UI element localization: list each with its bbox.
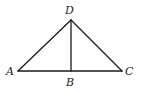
triangle-diagram: D A B C	[0, 0, 146, 91]
segment-DC	[71, 20, 122, 71]
point-label-b: B	[65, 76, 74, 89]
vertex-label-c: C	[125, 65, 134, 78]
vertex-label-d: D	[64, 4, 74, 17]
segment-AD	[18, 20, 71, 71]
vertex-label-a: A	[5, 65, 14, 78]
